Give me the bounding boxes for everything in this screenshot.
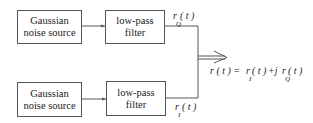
bottom-gaussian-noise-source: Gaussian noise source [17, 82, 82, 117]
top-gaussian-noise-source: Gaussian noise source [17, 10, 82, 44]
block-label: noise source [23, 27, 75, 39]
block-label: filter [126, 99, 146, 111]
top-low-pass-filter: low-pass filter [105, 10, 165, 44]
bottom-low-pass-filter: low-pass filter [106, 81, 166, 116]
block-label: low-pass [117, 87, 154, 99]
block-label: filter [125, 27, 145, 39]
block-label: Gaussian [30, 15, 69, 27]
block-label: low-pass [116, 15, 153, 27]
block-label: noise source [23, 100, 75, 112]
block-label: Gaussian [30, 88, 69, 100]
